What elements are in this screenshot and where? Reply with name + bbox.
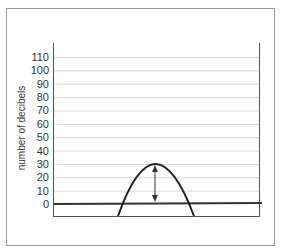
amplitude-arrow-icon <box>152 165 158 202</box>
y-tick-label: 0 <box>43 198 49 210</box>
y-tick-label: 30 <box>37 158 49 170</box>
y-tick-label: 100 <box>31 64 49 76</box>
zero-baseline <box>54 203 262 204</box>
y-axis-label: number of decibels <box>16 86 27 171</box>
chart: 0102030405060708090100110 number of deci… <box>0 0 281 249</box>
y-tick-label: 60 <box>37 118 49 130</box>
y-tick-label: 110 <box>31 51 49 63</box>
y-tick-label: 70 <box>37 104 49 116</box>
y-tick-labels: 0102030405060708090100110 <box>31 51 49 210</box>
y-tick-label: 40 <box>37 145 49 157</box>
y-tick-label: 90 <box>37 78 49 90</box>
y-tick-label: 10 <box>37 185 49 197</box>
y-tick-label: 20 <box>37 171 49 183</box>
y-tick-label: 50 <box>37 131 49 143</box>
y-tick-label: 80 <box>37 91 49 103</box>
